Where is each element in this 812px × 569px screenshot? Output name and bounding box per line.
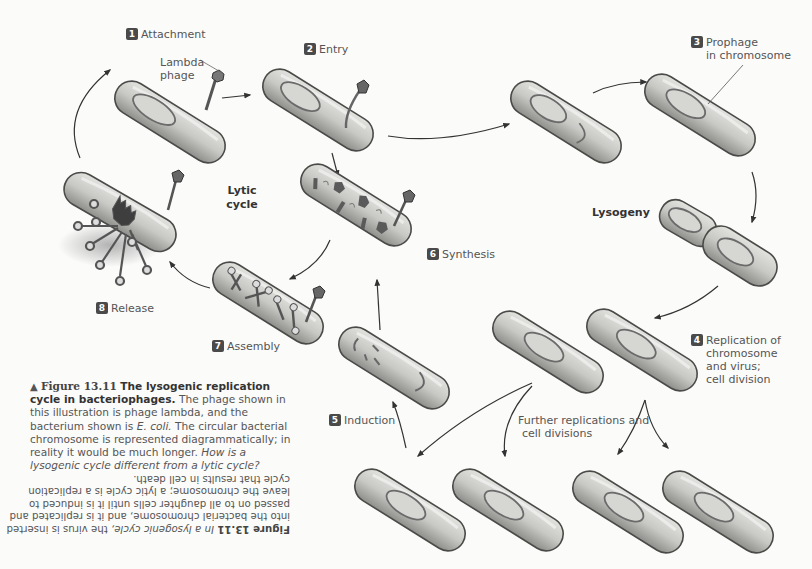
organism-name: E. coli. [137, 420, 172, 432]
step-4-label: 4 Replication of chromosome and virus; c… [691, 334, 781, 386]
upside-down-answer: Figure 13.11 In a lysogenic cycle, the v… [0, 472, 298, 535]
arrow-to-prophage [593, 82, 646, 93]
step-8-label: 8 Release [96, 302, 154, 315]
step-badge: 4 [691, 334, 703, 346]
step-3-label: 3 Prophage in chromosome [691, 36, 791, 62]
figure-number: Figure 13.11 [41, 380, 117, 392]
lysogeny-label: Lysogeny [592, 206, 650, 220]
cell-bottom-2 [446, 463, 569, 558]
arrow-assembly-to-release [170, 262, 210, 288]
prophage-pointer [708, 65, 743, 104]
step-badge: 1 [126, 28, 138, 40]
step-badge: 6 [427, 248, 439, 260]
step-badge: 8 [96, 302, 108, 314]
caption-arrow-icon: ▲ [30, 381, 38, 392]
cell-release [58, 166, 184, 285]
arrow-prophage-to-division [752, 172, 756, 222]
cell-entry [256, 63, 379, 158]
cell-synthesis [294, 158, 417, 253]
step-6-label: 6 Synthesis [427, 248, 495, 261]
arrow-attachment-to-entry [222, 95, 250, 98]
cell-induction [332, 321, 455, 416]
cell-dividing [654, 194, 783, 292]
step-1-label: 1 Attachment [126, 28, 206, 41]
arrow-synthesis-to-assembly [290, 240, 330, 279]
arrow-entry-to-lysogeny [388, 124, 509, 139]
step-5-label: 5 Induction [329, 414, 395, 427]
lytic-cycle-label: Lytic cycle [222, 184, 262, 212]
step-7-label: 7 Assembly [212, 340, 280, 353]
step-badge: 7 [212, 340, 224, 352]
cell-assembly [206, 256, 329, 351]
further-replications-label: Further replications and cell divisions [518, 414, 649, 440]
answer-figure-label: Figure 13.11 [217, 524, 290, 535]
step-badge: 3 [691, 36, 703, 48]
step-badge: 5 [329, 414, 341, 426]
cell-lysogeny-entry [504, 75, 627, 170]
arrow-release-to-attachment [74, 70, 110, 158]
cell-prophage [638, 68, 761, 163]
figure-caption: ▲ Figure 13.11 The lysogenic replication… [30, 380, 292, 472]
step-2-label: 2 Entry [304, 43, 348, 56]
lambda-phage-label: Lambda phage [160, 56, 204, 82]
cell-bottom-1 [348, 463, 471, 558]
answer-intro: In a lysogenic cycle, [111, 524, 214, 535]
step-badge: 2 [304, 43, 316, 55]
arrow-division-to-replication [655, 286, 718, 318]
arrow-induction-to-synthesis [377, 280, 380, 330]
